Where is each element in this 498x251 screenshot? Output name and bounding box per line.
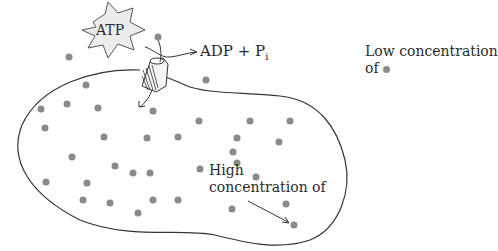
molecule-dot (66, 54, 73, 61)
molecule-dot (69, 154, 76, 161)
molecule-dot (247, 118, 254, 125)
molecule-dot (230, 149, 237, 156)
molecule-dot (155, 34, 162, 41)
molecule-dot (234, 135, 241, 142)
molecule-dot (112, 163, 119, 170)
molecule-dot (84, 180, 91, 187)
adp-pi-label: ADP + Pi (200, 43, 268, 65)
high-concentration-arrow (248, 201, 288, 222)
molecule-dot (291, 222, 298, 229)
molecule-dot (283, 201, 290, 208)
molecule-dot (229, 206, 236, 213)
atp-label: ATP (96, 22, 124, 39)
molecule-dot (38, 106, 45, 113)
molecule-dot (175, 134, 182, 141)
adp-pi-text: ADP + P (200, 42, 265, 60)
low-line2: of (365, 60, 379, 76)
molecule-dot (130, 170, 137, 177)
pump-protein-icon (142, 58, 168, 92)
molecule-dot (175, 197, 182, 204)
molecule-dot (101, 134, 108, 141)
molecule-dot (203, 77, 210, 84)
molecule-dot (196, 118, 203, 125)
molecule-dot (150, 108, 157, 115)
low-line2-wrap: of (365, 60, 498, 77)
high-concentration-label: High concentration of (209, 162, 326, 196)
molecule-dot (43, 179, 50, 186)
pi-subscript: i (265, 51, 268, 62)
molecule-dot (107, 200, 114, 207)
molecule-dot (144, 135, 151, 142)
molecule-dot (197, 166, 204, 173)
molecule-dot (147, 170, 154, 177)
molecule-dot (42, 125, 49, 132)
molecule-dot-icon (383, 66, 390, 73)
transport-arrow-out (140, 90, 152, 107)
cell-membrane (18, 70, 347, 245)
low-concentration-label: Low concentration of (365, 43, 498, 77)
molecule-dot (135, 210, 142, 217)
molecule-dot (80, 197, 87, 204)
molecule-dot (83, 82, 90, 89)
molecule-dot (276, 139, 283, 146)
high-line1: High (209, 162, 326, 179)
molecule-dot (95, 105, 102, 112)
molecule-dot (64, 101, 71, 108)
molecule-dot (287, 118, 294, 125)
high-line2: concentration of (209, 179, 326, 196)
molecule-dot (150, 197, 157, 204)
low-line1: Low concentration (365, 43, 498, 60)
atp-arrow (145, 47, 196, 57)
